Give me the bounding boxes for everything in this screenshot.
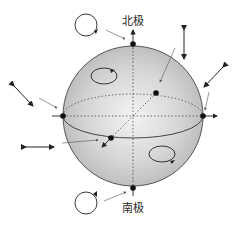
left-equator-point: [60, 113, 66, 119]
double-arrow-icon: [204, 67, 223, 87]
double-arrow-icon: [14, 86, 33, 106]
south-pole-label: 南极: [122, 199, 144, 215]
right-equator-point: [200, 113, 206, 119]
poincare-sphere-diagram: 北极 南极: [0, 0, 235, 227]
north-pole-label: 北极: [122, 12, 144, 28]
sphere: [63, 44, 203, 188]
circle-bottom-icon: [75, 192, 97, 214]
back-equator-point: [153, 90, 159, 96]
circle-top-icon: [75, 14, 97, 36]
south-pole-point: [130, 185, 136, 191]
north-pole-point: [130, 41, 136, 47]
diagram-canvas: [0, 0, 235, 227]
front-equator-point: [108, 135, 114, 141]
